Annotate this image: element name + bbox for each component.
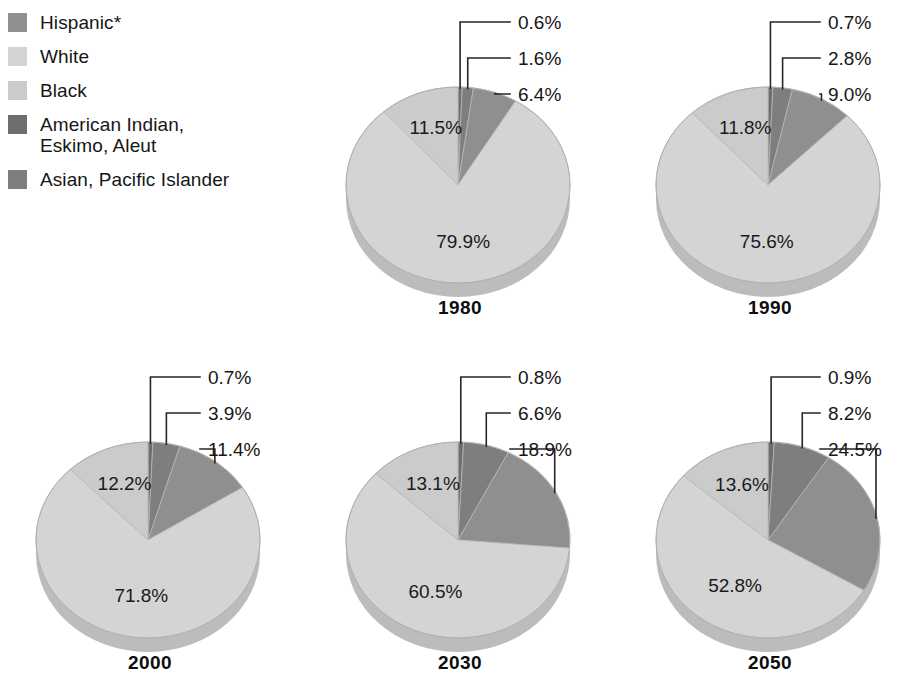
- callout-leader-line: [461, 377, 510, 443]
- slice-label-black: 11.5%: [410, 117, 463, 138]
- legend-label-black: Black: [40, 80, 87, 101]
- pie-panel-2000: 0.7%3.9%11.4%12.2%71.8% 2000: [0, 355, 300, 695]
- callout-leader-line: [770, 22, 820, 88]
- callout-leader-line: [802, 413, 820, 448]
- legend-label-american-indian: American Indian, Eskimo, Aleut: [40, 114, 184, 156]
- legend: Hispanic* White Black American Indian, E…: [8, 12, 298, 203]
- slice-label-black: 11.8%: [719, 117, 772, 138]
- year-label-2050: 2050: [620, 652, 919, 674]
- callout-value: 0.7%: [828, 12, 871, 33]
- callout-value: 3.9%: [208, 403, 251, 424]
- callout-value: 24.5%: [828, 439, 882, 460]
- year-label-2000: 2000: [0, 652, 300, 674]
- pie-panel-2030: 0.8%6.6%18.9%13.1%60.5% 2030: [310, 355, 610, 695]
- pie-panel-1990: 0.7%2.8%9.0%11.8%75.6% 1990: [620, 0, 919, 330]
- year-label-1990: 1990: [620, 297, 919, 319]
- pie-chart-2000: 0.7%3.9%11.4%12.2%71.8%: [0, 355, 300, 665]
- callout-leader-line: [150, 377, 200, 443]
- legend-label-white: White: [40, 46, 89, 67]
- slice-label-white: 60.5%: [408, 581, 462, 602]
- pie-panel-1980: 0.6%1.6%6.4%11.5%79.9% 1980: [310, 0, 610, 330]
- legend-item-hispanic: Hispanic*: [8, 12, 298, 33]
- slice-label-black: 12.2%: [98, 473, 152, 494]
- legend-swatch-white: [8, 47, 27, 66]
- callout-value: 0.8%: [518, 367, 561, 388]
- callout-value: 9.0%: [828, 84, 871, 105]
- callout-value: 6.6%: [518, 403, 561, 424]
- legend-item-american-indian: American Indian, Eskimo, Aleut: [8, 114, 298, 156]
- year-label-1980: 1980: [310, 297, 610, 319]
- legend-label-hispanic: Hispanic*: [40, 12, 121, 33]
- legend-item-asian: Asian, Pacific Islander: [8, 169, 298, 190]
- callout-value: 0.6%: [518, 12, 561, 33]
- legend-swatch-asian: [8, 170, 27, 189]
- legend-swatch-hispanic: [8, 13, 27, 32]
- callout-value: 2.8%: [828, 48, 871, 69]
- slice-label-white: 75.6%: [740, 231, 794, 252]
- callout-value: 18.9%: [518, 439, 572, 460]
- pie-panel-2050: 0.9%8.2%24.5%13.6%52.8% 2050: [620, 355, 919, 695]
- callout-leader-line: [166, 413, 200, 444]
- callout-value: 0.7%: [208, 367, 251, 388]
- legend-item-white: White: [8, 46, 298, 67]
- legend-item-black: Black: [8, 80, 298, 101]
- callout-value: 1.6%: [518, 48, 561, 69]
- pie-chart-1980: 0.6%1.6%6.4%11.5%79.9%: [310, 0, 610, 310]
- callout-leader-line: [468, 58, 510, 88]
- callout-value: 6.4%: [518, 84, 561, 105]
- slice-label-white: 71.8%: [114, 585, 168, 606]
- callout-value: 0.9%: [828, 367, 871, 388]
- pie-chart-1990: 0.7%2.8%9.0%11.8%75.6%: [620, 0, 919, 310]
- slice-label-white: 79.9%: [436, 231, 490, 252]
- callout-value: 8.2%: [828, 403, 871, 424]
- callout-leader-line: [486, 413, 510, 446]
- slice-label-black: 13.6%: [715, 474, 769, 495]
- callout-value: 11.4%: [208, 439, 261, 460]
- pie-chart-2030: 0.8%6.6%18.9%13.1%60.5%: [310, 355, 610, 665]
- slice-label-white: 52.8%: [708, 575, 762, 596]
- pie-chart-2050: 0.9%8.2%24.5%13.6%52.8%: [620, 355, 919, 665]
- legend-swatch-american-indian: [8, 115, 27, 134]
- callout-leader-line: [783, 58, 820, 89]
- year-label-2030: 2030: [310, 652, 610, 674]
- callout-leader-line: [771, 377, 820, 443]
- legend-label-asian: Asian, Pacific Islander: [40, 169, 229, 190]
- legend-swatch-black: [8, 81, 27, 100]
- slice-label-black: 13.1%: [406, 473, 460, 494]
